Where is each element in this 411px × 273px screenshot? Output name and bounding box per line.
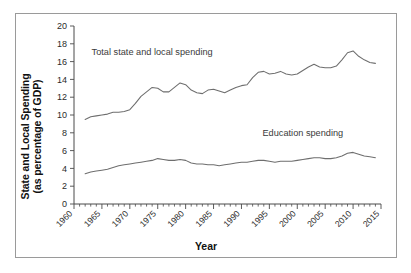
y-tick-label: 4 [62, 164, 67, 174]
y-tick-label: 10 [57, 110, 67, 120]
chart-figure: State and Local Spending (as percentage … [15, 13, 397, 258]
y-tick-label: 0 [62, 199, 67, 209]
data-line [85, 152, 375, 173]
x-tick-label: 2010 [333, 208, 354, 229]
y-tick-label: 2 [62, 181, 67, 191]
x-tick-label: 2005 [305, 208, 326, 229]
x-tick-label: 1970 [110, 208, 131, 229]
total-spending-label: Total state and local spending [92, 47, 213, 57]
x-tick-label: 2015 [361, 208, 382, 229]
y-tick-label: 6 [62, 146, 67, 156]
x-tick-label: 1990 [221, 208, 242, 229]
x-tick-label: 1975 [138, 208, 159, 229]
education-spending-label: Education spending [262, 128, 343, 138]
x-tick-label: 1985 [193, 208, 214, 229]
data-line [85, 51, 375, 120]
x-axis-title: Year [16, 240, 396, 252]
x-tick-label: 2000 [277, 208, 298, 229]
x-tick-label: 1960 [54, 208, 75, 229]
y-tick-label: 20 [57, 21, 67, 31]
x-tick-label: 1965 [82, 208, 103, 229]
x-tick-label: 1995 [249, 208, 270, 229]
line-chart-plot: 0246810121416182019601965197019751980198… [16, 14, 398, 259]
y-tick-label: 18 [57, 39, 67, 49]
x-tick-label: 1980 [165, 208, 186, 229]
y-tick-label: 8 [62, 128, 67, 138]
y-tick-label: 12 [57, 92, 67, 102]
y-tick-label: 16 [57, 57, 67, 67]
y-tick-label: 14 [57, 75, 67, 85]
